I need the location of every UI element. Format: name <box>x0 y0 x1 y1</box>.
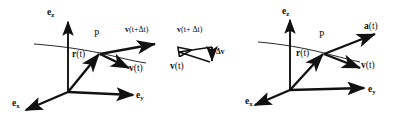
axis-label-ez-right: ez <box>282 7 289 18</box>
vector-r-t-right <box>290 54 323 90</box>
axis-label-ex-right: ex <box>245 97 253 108</box>
vector-v-t-plus-dt <box>100 44 155 54</box>
axis-label-ez-left: ez <box>47 8 54 19</box>
axis-ex-arrow <box>26 92 68 110</box>
vector-label-r-t-left: r(t) <box>72 50 85 60</box>
axis-label-ey-right: ey <box>368 85 376 96</box>
axis-label-ey-left: ey <box>136 91 144 102</box>
middle-panel-triangle <box>179 47 212 62</box>
figure-vector-layer <box>0 0 397 119</box>
kinematics-figure: ez ey ex P r(t) v(t+Δt) v(t) v(t+ Δt) v(… <box>0 0 397 119</box>
vector-label-v-t-plus-dt-left: v(t+Δt) <box>125 26 148 34</box>
vector-label-delta-v-middle: Δv <box>216 48 224 55</box>
point-label-p-left: P <box>94 30 99 40</box>
vector-label-a-t-right: a(t) <box>364 22 378 32</box>
vector-label-v-t-right: v(t) <box>361 61 375 71</box>
axis-ex-arrow-right <box>255 90 290 105</box>
vector-a-t <box>324 34 375 54</box>
left-panel-axes <box>26 22 133 110</box>
vector-label-v-t-left: v(t) <box>129 64 143 74</box>
point-label-p-right: P <box>319 31 324 41</box>
axis-ey-arrow-right <box>290 88 364 90</box>
vector-label-r-t-right: r(t) <box>296 49 309 59</box>
vector-label-v-t-middle: v(t) <box>170 62 184 72</box>
vector-mid-v-t-plus-dt <box>179 47 212 52</box>
trajectory-curve <box>34 44 146 63</box>
axis-label-ex-left: ex <box>12 99 20 110</box>
vector-r-t <box>68 54 99 92</box>
vector-label-v-t-plus-dt-middle: v(t+ Δt) <box>177 26 202 34</box>
axis-ey-arrow <box>68 92 133 95</box>
left-panel-trajectory <box>34 44 146 63</box>
